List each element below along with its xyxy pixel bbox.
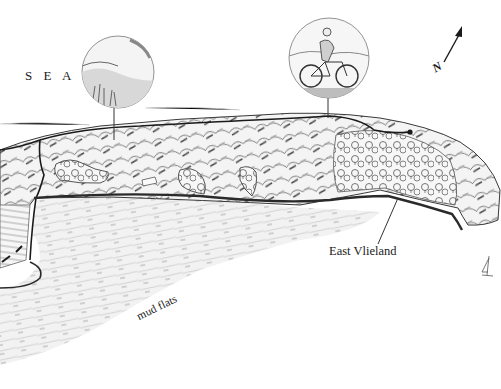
sea-label: S E A [25, 68, 75, 84]
cyclist-vignette [289, 18, 369, 100]
leader-east-vlieland [378, 198, 398, 244]
sailboat-icon [482, 256, 493, 276]
route-endpoint [407, 129, 412, 134]
east-vlieland-label: East Vlieland [329, 244, 396, 259]
dunes-vignette [82, 36, 156, 110]
north-arrow-icon [444, 26, 462, 62]
fields-west [0, 205, 30, 268]
mud-flats-area [0, 196, 380, 365]
island-map [0, 0, 501, 389]
